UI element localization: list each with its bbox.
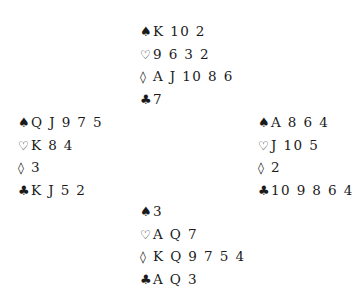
diamond-icon: ◊	[140, 66, 153, 89]
south-diamonds-cards: K Q 9 7 5 4	[153, 248, 245, 264]
east-spades-cards: A 8 6 4	[271, 114, 329, 130]
south-hearts-cards: A Q 7	[153, 226, 198, 242]
club-icon: ♣	[140, 89, 153, 112]
west-hearts: ♡K 8 4	[18, 134, 103, 157]
spade-icon: ♠	[140, 21, 153, 44]
heart-icon: ♡	[258, 135, 271, 158]
west-hand: ♠Q J 9 7 5 ♡K 8 4 ◊3 ♣K J 5 2	[18, 111, 103, 201]
spade-icon: ♠	[18, 112, 31, 135]
north-hearts-cards: 9 6 3 2	[153, 46, 210, 62]
north-diamonds-cards: A J 10 8 6	[153, 68, 234, 84]
north-clubs-cards: 7	[153, 91, 163, 107]
north-hearts: ♡9 6 3 2	[140, 43, 234, 66]
east-spades: ♠A 8 6 4	[258, 111, 354, 134]
south-clubs: ♣A Q 3	[140, 268, 245, 291]
diamond-icon: ◊	[18, 157, 31, 180]
east-hand: ♠A 8 6 4 ♡J 10 5 ◊2 ♣10 9 8 6 4	[258, 111, 354, 201]
club-icon: ♣	[18, 180, 31, 203]
west-clubs-cards: K J 5 2	[31, 182, 86, 198]
north-clubs: ♣7	[140, 88, 234, 111]
east-diamonds-cards: 2	[271, 159, 281, 175]
club-icon: ♣	[258, 180, 271, 203]
west-hearts-cards: K 8 4	[31, 137, 74, 153]
diamond-icon: ◊	[258, 157, 271, 180]
south-clubs-cards: A Q 3	[153, 271, 198, 287]
east-hearts: ♡J 10 5	[258, 134, 354, 157]
east-clubs: ♣10 9 8 6 4	[258, 179, 354, 202]
diamond-icon: ◊	[140, 246, 153, 269]
west-diamonds: ◊3	[18, 156, 103, 179]
west-spades: ♠Q J 9 7 5	[18, 111, 103, 134]
club-icon: ♣	[140, 269, 153, 292]
east-diamonds: ◊2	[258, 156, 354, 179]
heart-icon: ♡	[140, 44, 153, 67]
south-spades: ♠3	[140, 200, 245, 223]
north-spades: ♠K 10 2	[140, 20, 234, 43]
heart-icon: ♡	[18, 135, 31, 158]
west-spades-cards: Q J 9 7 5	[31, 114, 103, 130]
north-hand: ♠K 10 2 ♡9 6 3 2 ◊A J 10 8 6 ♣7	[140, 20, 234, 110]
north-spades-cards: K 10 2	[153, 23, 206, 39]
heart-icon: ♡	[140, 224, 153, 247]
east-clubs-cards: 10 9 8 6 4	[271, 182, 354, 198]
east-hearts-cards: J 10 5	[271, 137, 319, 153]
spade-icon: ♠	[258, 112, 271, 135]
spade-icon: ♠	[140, 201, 153, 224]
south-hand: ♠3 ♡A Q 7 ◊K Q 9 7 5 4 ♣A Q 3	[140, 200, 245, 290]
south-spades-cards: 3	[153, 203, 163, 219]
south-hearts: ♡A Q 7	[140, 223, 245, 246]
south-diamonds: ◊K Q 9 7 5 4	[140, 245, 245, 268]
west-clubs: ♣K J 5 2	[18, 179, 103, 202]
west-diamonds-cards: 3	[31, 159, 41, 175]
north-diamonds: ◊A J 10 8 6	[140, 65, 234, 88]
